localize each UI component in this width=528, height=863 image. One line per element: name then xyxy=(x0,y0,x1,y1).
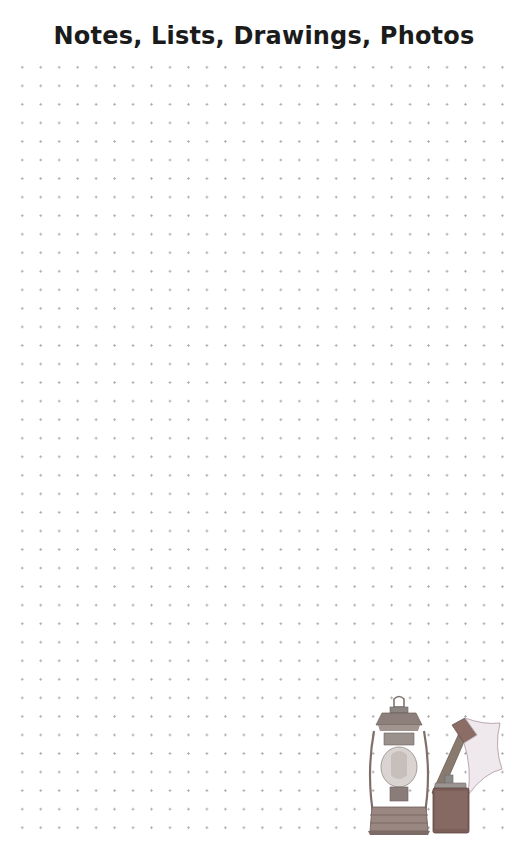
lantern-icon xyxy=(368,697,430,836)
flask-icon xyxy=(433,775,469,833)
camping-illustration xyxy=(366,695,508,840)
notebook-page: Notes, Lists, Drawings, Photos xyxy=(0,0,528,863)
page-title: Notes, Lists, Drawings, Photos xyxy=(0,22,528,50)
